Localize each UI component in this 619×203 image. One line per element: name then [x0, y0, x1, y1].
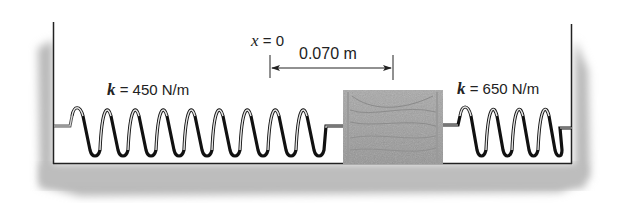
displacement-label: 0.070 m	[299, 45, 357, 63]
diagram-canvas	[0, 0, 619, 203]
left-spring-constant-label: k = 450 N/m	[107, 80, 189, 100]
right-spring-constant-label: k = 650 N/m	[457, 79, 539, 99]
origin-label: x = 0	[251, 31, 284, 51]
wooden-block[interactable]	[343, 90, 443, 164]
